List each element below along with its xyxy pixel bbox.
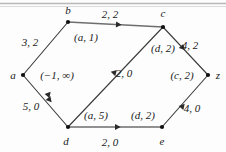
edge-weight-e-z: 4, 0 — [184, 103, 201, 114]
node-label-a: a — [10, 70, 16, 81]
node-annotation-d: (a, 5) — [84, 110, 108, 121]
edge-weight-b-c: 2, 2 — [102, 9, 119, 20]
arrow-b-c — [116, 21, 122, 27]
flow-network-figure: a b c d e z 3, 2 2, 2 4, 2 5, 0 2, 0 4, … — [0, 0, 226, 152]
node-dot-z — [206, 73, 210, 77]
top-rule — [0, 4, 226, 7]
edge-weight-c-z: 4, 2 — [182, 40, 199, 51]
node-dot-e — [160, 125, 164, 129]
node-dot-d — [66, 125, 70, 129]
node-label-d: d — [63, 136, 69, 147]
node-dot-c — [161, 25, 165, 29]
node-annotation-a: (−1, ∞) — [40, 70, 74, 81]
node-annotation-e: (d, 2) — [131, 110, 155, 121]
node-label-c: c — [161, 8, 166, 19]
node-label-b: b — [65, 5, 71, 16]
node-dot-a — [21, 73, 25, 77]
edge-weight-d-c: 2, 0 — [116, 68, 133, 79]
edge-b-c — [68, 22, 163, 27]
edge-weight-a-d: 5, 0 — [23, 101, 40, 112]
edge-weight-d-e: 2, 0 — [102, 137, 119, 148]
node-annotation-z: (c, 2) — [170, 70, 193, 81]
node-dot-b — [66, 20, 70, 24]
arrow-d-e — [115, 124, 121, 130]
node-annotation-c: (d, 2) — [151, 43, 175, 54]
node-annotation-b: (a, 1) — [74, 32, 98, 43]
arrow-a-b — [45, 90, 53, 98]
node-label-e: e — [160, 136, 165, 147]
edge-a-b — [23, 22, 68, 75]
edge-weight-a-b: 3, 2 — [22, 37, 39, 48]
node-label-z: z — [216, 70, 220, 81]
